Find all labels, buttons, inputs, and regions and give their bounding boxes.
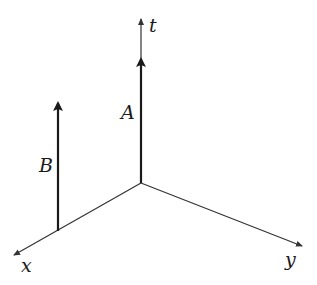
worldline-b-label: B: [38, 154, 53, 176]
worldline-a-label: A: [119, 101, 135, 123]
t-axis-label: t: [149, 14, 157, 36]
x-axis: [14, 183, 141, 255]
spacetime-diagram: t x y A B: [0, 0, 317, 285]
y-axis: [141, 183, 302, 246]
x-axis-label: x: [21, 254, 32, 276]
y-axis-label: y: [284, 248, 296, 270]
